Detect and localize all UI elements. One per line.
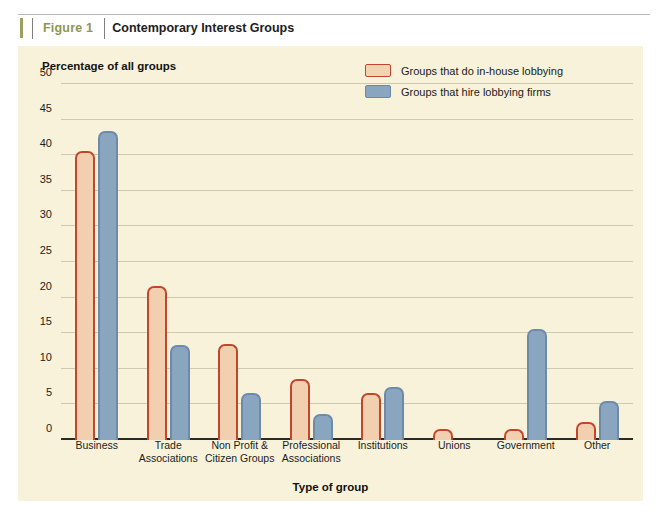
bar-group xyxy=(204,84,276,440)
figure-divider-left xyxy=(32,18,33,39)
x-axis-tick-label: Government xyxy=(490,439,562,473)
figure-divider-right xyxy=(104,18,105,39)
bar-group xyxy=(490,84,562,440)
x-axis-tick-label: Institutions xyxy=(347,439,419,473)
x-axis-title: Type of group xyxy=(18,481,643,493)
y-axis-tick-label: 25 xyxy=(40,244,52,256)
figure-label: Figure 1 xyxy=(43,21,93,35)
y-axis-tick-label: 0 xyxy=(46,422,52,434)
bar-group xyxy=(276,84,348,440)
legend-swatch-inhouse-icon xyxy=(365,64,391,77)
bar-inhouse xyxy=(576,422,596,440)
plot-area xyxy=(61,84,633,440)
bar-group xyxy=(562,84,634,440)
legend-label-inhouse: Groups that do in-house lobbying xyxy=(401,65,563,77)
x-axis-tick-label: Business xyxy=(61,439,133,473)
x-axis-tick-labels: BusinessTradeAssociationsNon Profit &Cit… xyxy=(61,439,633,473)
bar-inhouse xyxy=(218,344,238,440)
bar-firms xyxy=(384,387,404,440)
x-axis-tick-label: ProfessionalAssociations xyxy=(276,439,348,473)
x-axis-tick-label: TradeAssociations xyxy=(133,439,205,473)
figure-title: Contemporary Interest Groups xyxy=(112,21,294,35)
bar-group xyxy=(419,84,491,440)
y-axis-tick-label: 35 xyxy=(40,173,52,185)
bar-groups xyxy=(61,84,633,440)
bar-group xyxy=(133,84,205,440)
y-axis-tick-label: 45 xyxy=(40,102,52,114)
figure-accent-rule xyxy=(20,18,23,38)
bar-firms xyxy=(170,345,190,440)
figure-header: Figure 1 Contemporary Interest Groups xyxy=(18,14,650,41)
chart-panel: Percentage of all groups Groups that do … xyxy=(18,46,643,501)
y-axis-title: Percentage of all groups xyxy=(42,60,176,72)
bar-inhouse xyxy=(290,379,310,440)
y-axis-tick-label: 40 xyxy=(40,137,52,149)
bar-firms xyxy=(241,393,261,440)
bar-firms xyxy=(527,329,547,440)
y-axis-tick-label: 20 xyxy=(40,280,52,292)
bar-inhouse xyxy=(361,393,381,440)
x-axis-tick-label: Unions xyxy=(419,439,491,473)
y-axis-tick-label: 10 xyxy=(40,351,52,363)
y-axis-tick-label: 5 xyxy=(46,386,52,398)
x-axis-tick-label: Other xyxy=(562,439,634,473)
bar-firms xyxy=(98,131,118,440)
y-axis-tick-labels: 05101520253035404550 xyxy=(18,84,61,440)
bar-inhouse xyxy=(147,286,167,441)
bar-firms xyxy=(313,414,333,440)
y-axis-tick-label: 30 xyxy=(40,208,52,220)
bar-group xyxy=(347,84,419,440)
bar-inhouse xyxy=(75,151,95,440)
x-axis-tick-label: Non Profit &Citizen Groups xyxy=(204,439,276,473)
bar-group xyxy=(61,84,133,440)
bar-firms xyxy=(599,401,619,440)
y-axis-tick-label: 50 xyxy=(40,66,52,78)
y-axis-tick-label: 15 xyxy=(40,315,52,327)
legend-item-inhouse: Groups that do in-house lobbying xyxy=(365,60,627,81)
